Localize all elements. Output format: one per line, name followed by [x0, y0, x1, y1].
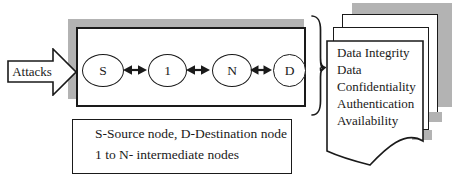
node-intermediate-n: N: [212, 54, 252, 87]
bidirectional-arrow-icon: [186, 64, 210, 76]
bidirectional-arrow-icon: [250, 64, 272, 76]
attack-arrow-label: Attacks: [10, 64, 54, 80]
security-property-line: Availability: [337, 112, 427, 129]
legend-line-1: S-Source node, D-Destination node: [95, 126, 295, 142]
node-source: S: [82, 54, 124, 87]
legend-line-2: 1 to N- intermediate nodes: [95, 147, 295, 163]
security-property-line: Data Integrity: [337, 44, 427, 61]
figure-network-attack-diagram: Attacks S 1 N D Data Integrity Data Conf…: [0, 0, 456, 187]
security-property-line: Authentication: [337, 95, 427, 112]
bidirectional-arrow-icon: [123, 64, 147, 76]
security-property-line: Confidentiality: [337, 78, 427, 95]
node-intermediate-1: 1: [148, 54, 187, 87]
security-properties-list: Data Integrity Data Confidentiality Auth…: [337, 44, 427, 129]
curly-brace-icon: [311, 15, 326, 116]
node-destination: D: [273, 54, 306, 87]
security-property-line: Data: [337, 61, 427, 78]
